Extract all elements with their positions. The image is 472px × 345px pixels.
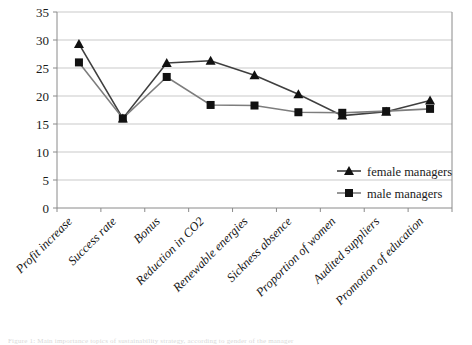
data-point-triangle xyxy=(425,95,435,104)
x-category-label: Bonus xyxy=(131,214,163,246)
y-tick-label: 25 xyxy=(36,61,49,76)
x-axis-category-labels: Profit increaseSuccess rateBonusReductio… xyxy=(12,214,426,309)
data-point-square xyxy=(338,109,346,117)
x-category-label: Renewable energies xyxy=(169,214,250,295)
y-tick-label: 5 xyxy=(43,173,50,188)
legend-marker-square xyxy=(345,189,353,197)
data-point-square xyxy=(75,58,83,66)
y-tick-label: 20 xyxy=(36,89,49,104)
x-axis-tick-marks xyxy=(57,208,452,212)
y-axis-tick-labels: 35302520151050 xyxy=(36,5,49,216)
legend-label: female managers xyxy=(367,165,452,179)
y-tick-label: 30 xyxy=(36,33,49,48)
chart-container: 35302520151050 Profit increaseSuccess ra… xyxy=(0,0,472,345)
data-point-square xyxy=(119,114,127,122)
figure-caption: Figure 1: Main importance topics of sust… xyxy=(8,337,294,345)
x-category-label: Success rate xyxy=(65,214,119,268)
x-category-label: Profit increase xyxy=(12,214,75,277)
data-point-triangle xyxy=(293,89,303,98)
data-point-square xyxy=(426,105,434,113)
data-point-square xyxy=(382,107,390,115)
legend-label: male managers xyxy=(367,187,442,201)
x-category-label: Proportion of women xyxy=(252,214,338,300)
y-tick-label: 15 xyxy=(36,117,49,132)
y-tick-label: 10 xyxy=(36,145,49,160)
x-category-label: Promotion of education xyxy=(332,214,426,308)
y-tick-label: 0 xyxy=(43,201,50,216)
series-markers xyxy=(74,39,435,122)
data-point-square xyxy=(207,101,215,109)
y-tick-label: 35 xyxy=(36,5,49,20)
data-point-square xyxy=(294,108,302,116)
line-chart: 35302520151050 Profit increaseSuccess ra… xyxy=(0,0,472,345)
chart-legend: female managersmale managers xyxy=(337,165,452,201)
data-point-square xyxy=(251,102,259,110)
data-point-square xyxy=(163,73,171,81)
